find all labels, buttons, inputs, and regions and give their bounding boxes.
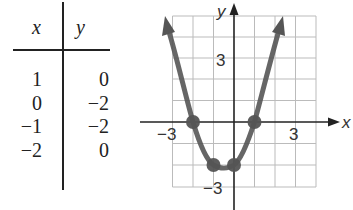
y-axis-label: y (216, 2, 227, 21)
point-0-neg2 (227, 158, 241, 172)
parabola-graph: y x 3 −3 3 −3 (0, 0, 353, 210)
tick-label-x-pos-3: 3 (289, 125, 298, 144)
curve-arrow-left-icon (162, 16, 175, 36)
point-1-0 (248, 115, 262, 129)
tick-label-x-neg-3: −3 (157, 125, 176, 144)
point-neg1-neg2 (207, 158, 221, 172)
tick-label-y-pos-3: 3 (216, 51, 225, 70)
y-axis-arrow-icon (230, 3, 239, 15)
curve-arrow-right-icon (272, 16, 285, 36)
point-neg2-0 (186, 115, 200, 129)
x-axis-arrow-icon (328, 118, 340, 127)
tick-label-y-neg-3: −3 (203, 179, 222, 198)
x-axis-label: x (341, 113, 351, 132)
grid (173, 16, 317, 187)
